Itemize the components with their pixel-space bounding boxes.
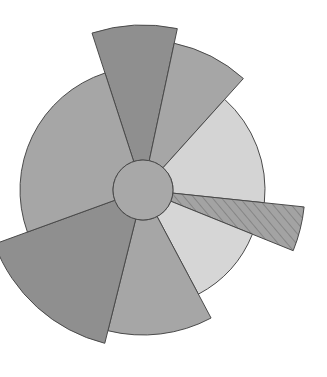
center-hole <box>113 160 173 220</box>
chart-canvas <box>0 0 327 377</box>
polar-area-chart <box>0 0 327 377</box>
